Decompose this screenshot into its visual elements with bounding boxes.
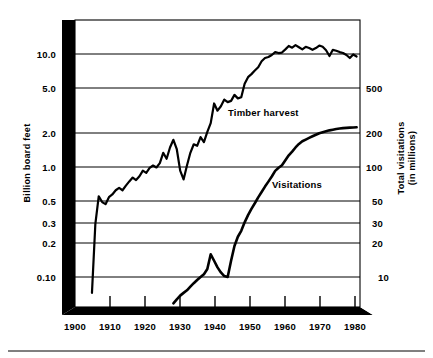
y-right-tick-6: 10 bbox=[378, 272, 389, 283]
y-right-tick-0: 500 bbox=[366, 83, 382, 94]
x-tick-4: 1940 bbox=[204, 321, 226, 332]
y-left-tick-6: 0.2 bbox=[42, 238, 56, 249]
x-tick-0: 1900 bbox=[64, 321, 86, 332]
y-left-axis-title: Billion board feet bbox=[22, 124, 32, 203]
x-tick-6: 1960 bbox=[274, 321, 296, 332]
y-left-tick-4: 0.5 bbox=[42, 196, 56, 207]
x-tick-3: 1930 bbox=[169, 321, 191, 332]
y-left-tick-1: 5.0 bbox=[42, 83, 56, 94]
y-right-axis-title-line2: (in millions) bbox=[407, 131, 417, 185]
chart-figure: 10.0 5.0 2.0 1.0 0.5 0.3 0.2 0.10 500 20… bbox=[0, 0, 433, 358]
x-tick-labels: 1900 1910 1920 1930 1940 1950 1960 1970 … bbox=[64, 321, 366, 332]
y-right-axis-title-line1: Total visitations bbox=[396, 122, 406, 195]
y-left-tick-5: 0.3 bbox=[42, 218, 56, 229]
x-tick-2: 1920 bbox=[134, 321, 156, 332]
y-right-tick-3: 50 bbox=[372, 196, 383, 207]
series-label-visitations: Visitations bbox=[272, 179, 322, 190]
x-tick-8: 1980 bbox=[344, 321, 366, 332]
series-label-timber-harvest: Timber harvest bbox=[228, 107, 299, 118]
x-tick-1: 1910 bbox=[99, 321, 121, 332]
y-right-tick-2: 100 bbox=[366, 162, 382, 173]
y-left-tick-2: 2.0 bbox=[42, 128, 56, 139]
y-right-tick-4: 30 bbox=[372, 218, 383, 229]
x-tick-5: 1950 bbox=[239, 321, 261, 332]
y-right-tick-5: 20 bbox=[372, 238, 383, 249]
x-tick-7: 1970 bbox=[309, 321, 331, 332]
axis-left-slab bbox=[62, 20, 75, 315]
y-left-tick-0: 10.0 bbox=[37, 49, 56, 60]
axis-bottom-slab bbox=[62, 307, 373, 315]
y-left-tick-7: 0.10 bbox=[37, 272, 56, 283]
y-left-tick-3: 1.0 bbox=[42, 162, 56, 173]
y-right-tick-1: 200 bbox=[366, 128, 382, 139]
dual-axis-log-line-chart: 10.0 5.0 2.0 1.0 0.5 0.3 0.2 0.10 500 20… bbox=[0, 0, 433, 358]
